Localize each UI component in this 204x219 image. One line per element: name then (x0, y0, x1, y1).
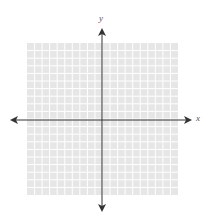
coordinate-grid-graphic (0, 0, 204, 219)
coordinate-plane: y x (0, 0, 204, 219)
y-axis-label: y (99, 14, 103, 23)
x-axis-label: x (196, 114, 200, 123)
